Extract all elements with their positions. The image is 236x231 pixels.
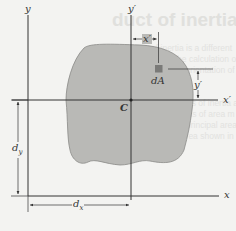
area-element-dA bbox=[155, 65, 163, 73]
centroid-label: C bbox=[120, 103, 128, 113]
dy-dimension-label: dy bbox=[12, 142, 22, 158]
diagram-canvas bbox=[0, 0, 236, 231]
element-label: dA bbox=[151, 76, 165, 86]
x-prime-dimension-label: x′ bbox=[142, 34, 152, 44]
y-axis-label: y bbox=[25, 4, 31, 14]
x-axis-label: x bbox=[224, 190, 230, 200]
dx-dimension-label: dx bbox=[72, 199, 84, 213]
x-prime-axis-label: x′ bbox=[223, 95, 231, 105]
y-prime-axis-label: y′ bbox=[128, 4, 136, 14]
area-shape bbox=[66, 44, 193, 165]
centroid-point bbox=[129, 98, 132, 101]
y-prime-dimension-label: y′ bbox=[194, 80, 202, 90]
